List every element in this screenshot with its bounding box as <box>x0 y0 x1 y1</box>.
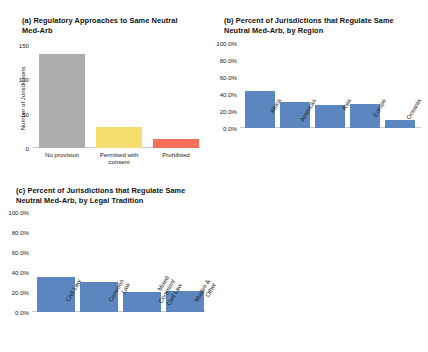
panel-c-by-legal-tradition: (c) Percent of Jurisdictions that Regula… <box>0 178 215 352</box>
panel-a-y-axis-label: Number of Jurisdictions <box>19 61 26 137</box>
panel-a-regulatory-approaches: (a) Regulatory Approaches to Same Neutra… <box>0 0 215 178</box>
panel-b-ytick-0: 0.0% <box>213 125 237 132</box>
panel-a-title: (a) Regulatory Approaches to Same Neutra… <box>22 16 208 36</box>
panel-a-bar-no-provision <box>39 54 85 148</box>
panel-a-ytick-100: 100 <box>7 76 29 83</box>
panel-a-ytick-150: 150 <box>7 42 29 49</box>
panel-c-ytick-100: 100.0% <box>4 209 29 216</box>
panel-a-plot-area: 150 100 50 0 No provision Permitted with… <box>33 45 200 148</box>
panel-b-ytick-100: 100.0% <box>213 40 237 47</box>
panel-a-bar-permitted-with-consent <box>96 127 142 148</box>
panel-b-plot-area: 100.0% 80.0% 60.0% 40.0% 20.0% 0.0% Afri… <box>240 43 421 128</box>
panel-c-ytick-0: 0.0% <box>4 309 29 316</box>
panel-b-ytick-40: 40.0% <box>213 91 237 98</box>
panel-b-xlabel-oceania: Oceania <box>396 97 422 135</box>
panel-b-title: (b) Percent of Jurisdictions that Regula… <box>224 16 424 36</box>
panel-a-ytick-0: 0 <box>7 145 29 152</box>
panel-b-ytick-60: 60.0% <box>213 74 237 81</box>
panel-b-by-region: (b) Percent of Jurisdictions that Regula… <box>215 0 428 185</box>
panel-b-ytick-20: 20.0% <box>213 108 237 115</box>
panel-c-plot-area: 100.0% 80.0% 60.0% 40.0% 20.0% 0.0% Civi… <box>32 212 205 312</box>
panel-a-ytick-50: 50 <box>7 110 29 117</box>
panel-c-ytick-80: 80.0% <box>4 229 29 236</box>
panel-b-ytick-80: 80.0% <box>213 57 237 64</box>
panel-c-ytick-20: 20.0% <box>4 289 29 296</box>
panel-a-bar-prohibited <box>153 139 199 148</box>
panel-c-ytick-40: 40.0% <box>4 269 29 276</box>
panel-c-title: (c) Percent of Jurisdictions that Regula… <box>16 186 208 206</box>
panel-c-ytick-60: 60.0% <box>4 249 29 256</box>
panel-a-xlabel-prohibited: Prohibited <box>143 151 209 158</box>
